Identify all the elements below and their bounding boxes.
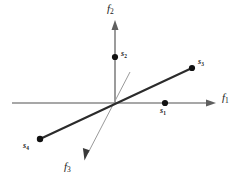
axis-f2-arrowhead <box>112 20 119 30</box>
axis-label-f3: f3 <box>64 161 71 174</box>
point-label-s4: s4 <box>23 142 29 151</box>
point-label-s3: s3 <box>198 58 204 67</box>
point-label-s2: s2 <box>121 50 127 59</box>
axis-f2 <box>112 20 119 103</box>
axis-label-f1: f1 <box>222 92 229 105</box>
data-point-s4 <box>37 136 43 142</box>
axis-f1-arrowhead <box>206 100 216 107</box>
point-label-s1: s1 <box>160 107 166 116</box>
data-point-s3 <box>189 65 195 71</box>
data-point-s2 <box>112 54 118 60</box>
axis-label-f2: f2 <box>107 3 114 16</box>
objective-space-figure: f1 f2 f3 s1 s2 s3 s4 <box>0 0 245 182</box>
figure-canvas <box>0 0 245 182</box>
axis-f3-arrowhead <box>83 148 90 161</box>
